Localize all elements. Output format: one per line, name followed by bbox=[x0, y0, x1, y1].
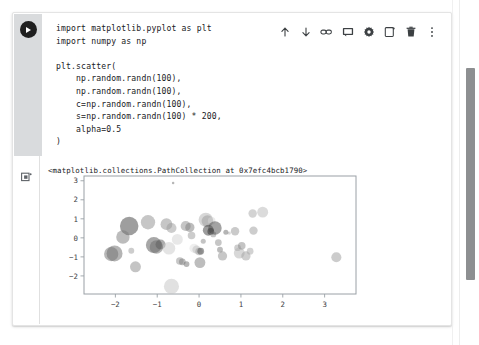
x-tick-label: −2 bbox=[111, 300, 120, 309]
x-tick-label: 1 bbox=[239, 300, 243, 309]
run-cell-button[interactable] bbox=[20, 21, 37, 38]
y-tick-label: 3 bbox=[74, 176, 78, 185]
data-point bbox=[130, 261, 141, 272]
scatter-plot-svg: −2−10123−2−10123 bbox=[54, 170, 364, 316]
data-point bbox=[166, 223, 176, 233]
move-cell-down-icon[interactable] bbox=[296, 23, 315, 42]
data-point bbox=[185, 223, 194, 232]
x-tick-label: −1 bbox=[153, 300, 162, 309]
data-point bbox=[141, 215, 155, 229]
data-point bbox=[215, 239, 222, 246]
data-point bbox=[331, 252, 341, 262]
data-point bbox=[172, 182, 175, 185]
delete-cell-icon[interactable] bbox=[401, 23, 420, 42]
data-point bbox=[248, 209, 256, 217]
notebook-cell: import matplotlib.pyplot as plt import n… bbox=[12, 12, 452, 326]
x-tick-label: 2 bbox=[281, 300, 285, 309]
cell-toolbar bbox=[273, 21, 443, 43]
output-body: <matplotlib.collections.PathCollection a… bbox=[40, 156, 450, 324]
right-panel bbox=[459, 0, 479, 345]
y-tick-label: 0 bbox=[74, 234, 78, 243]
y-tick-label: −2 bbox=[69, 272, 78, 281]
output-cell-row: <matplotlib.collections.PathCollection a… bbox=[14, 156, 450, 324]
data-point bbox=[184, 261, 190, 267]
scatter-plot: −2−10123−2−10123 bbox=[54, 170, 364, 316]
output-gutter bbox=[14, 156, 40, 324]
data-point bbox=[249, 226, 257, 234]
data-point bbox=[201, 239, 206, 244]
data-point bbox=[116, 230, 129, 243]
data-point bbox=[197, 248, 204, 255]
data-point bbox=[223, 230, 228, 235]
data-point bbox=[194, 257, 205, 268]
cell-gutter bbox=[14, 14, 42, 156]
data-point bbox=[104, 247, 118, 261]
data-point bbox=[231, 227, 239, 235]
move-cell-up-icon[interactable] bbox=[275, 23, 294, 42]
data-point bbox=[257, 207, 268, 218]
y-tick-label: −1 bbox=[69, 253, 78, 262]
scrollbar-thumb[interactable] bbox=[466, 68, 475, 280]
data-point bbox=[247, 248, 254, 255]
notebook-screen: import matplotlib.pyplot as plt import n… bbox=[0, 0, 479, 345]
y-tick-label: 2 bbox=[74, 195, 78, 204]
data-point bbox=[238, 242, 246, 250]
data-point bbox=[218, 251, 227, 260]
data-point bbox=[128, 248, 134, 254]
data-point bbox=[172, 234, 183, 245]
link-to-cell-icon[interactable] bbox=[317, 23, 336, 42]
data-point bbox=[188, 232, 196, 240]
data-point bbox=[208, 221, 221, 234]
output-indicator-icon bbox=[21, 169, 32, 324]
x-tick-label: 0 bbox=[197, 300, 201, 309]
more-options-icon[interactable] bbox=[422, 23, 441, 42]
play-icon bbox=[26, 27, 31, 33]
x-tick-label: 3 bbox=[322, 300, 326, 309]
cell-settings-icon[interactable] bbox=[359, 23, 378, 42]
y-tick-label: 1 bbox=[74, 215, 78, 224]
data-point bbox=[164, 279, 179, 294]
data-point bbox=[163, 242, 176, 255]
copy-cell-icon[interactable] bbox=[380, 23, 399, 42]
comment-icon[interactable] bbox=[338, 23, 357, 42]
page-right-edge bbox=[452, 0, 453, 345]
